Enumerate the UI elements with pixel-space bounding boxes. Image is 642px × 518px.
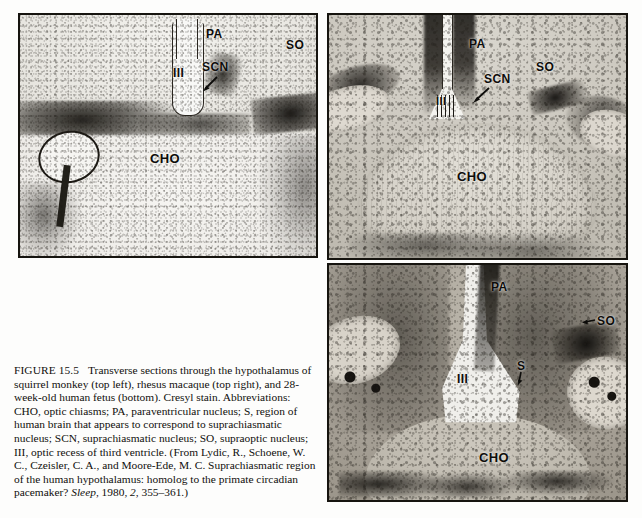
- label-cho: CHO: [150, 152, 180, 165]
- micrograph-rhesus-macaque: PA III SCN SO CHO: [329, 15, 626, 258]
- label-iii: III: [436, 96, 446, 107]
- label-cho: CHO: [457, 170, 487, 183]
- label-iii: III: [173, 67, 184, 79]
- stain-grain-layer-2: [20, 15, 316, 256]
- label-so: SO: [597, 315, 615, 327]
- stain-grain-layer-coarse: [329, 15, 626, 258]
- so-pointer-arrow: [579, 315, 597, 329]
- scn-pointer-arrow: [200, 75, 220, 93]
- label-so: SO: [286, 39, 304, 51]
- caption-journal-name: Sleep: [71, 486, 96, 498]
- caption-text-part-3: , 355–361.): [136, 486, 188, 498]
- label-so: SO: [536, 61, 554, 73]
- panel-top-left: PA III SCN SO CHO: [18, 13, 318, 258]
- caption-text-part-1: Transverse sections through the hypothal…: [14, 364, 315, 498]
- label-cho: CHO: [479, 451, 509, 464]
- label-pa: PA: [491, 281, 508, 293]
- caption-text-part-2: , 1980,: [96, 486, 130, 498]
- s-pointer-arrow: [513, 371, 527, 387]
- stain-grain-layer-coarse: [329, 265, 626, 500]
- micrograph-squirrel-monkey: PA III SCN SO CHO: [20, 15, 316, 256]
- micrograph-human-fetus: PA III S SO CHO: [329, 265, 626, 500]
- label-pa: PA: [206, 28, 223, 40]
- label-scn: SCN: [202, 61, 229, 73]
- label-iii: III: [457, 373, 468, 385]
- figure-caption: FIGURE 15.5Transverse sections through t…: [14, 364, 318, 500]
- panel-bottom-right: PA III S SO CHO: [327, 263, 628, 502]
- figure-number: FIGURE 15.5: [14, 364, 79, 376]
- scn-pointer-arrow: [470, 85, 492, 105]
- panel-top-right: PA III SCN SO CHO: [327, 13, 628, 260]
- label-scn: SCN: [484, 73, 511, 85]
- label-pa: PA: [469, 38, 486, 50]
